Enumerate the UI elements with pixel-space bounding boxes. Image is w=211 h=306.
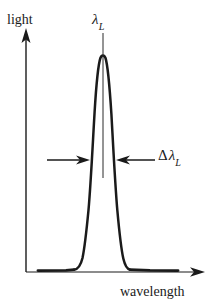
spectrum-peak-curve [74,55,130,269]
lambda-glyph: λ [92,11,99,27]
y-axis-label: light [7,13,33,27]
peak-center-label: λL [92,12,104,30]
lambda-subscript: L [175,157,181,168]
linewidth-label: ΔλL [158,148,181,166]
spectrum-baseline-right [130,270,178,271]
spectrum-baseline-left [38,270,74,271]
x-axis-label: wavelength [120,285,185,299]
lambda-subscript: L [99,21,105,32]
delta-glyph: Δ [158,147,169,163]
spectrum-figure: light wavelength λL ΔλL [0,0,211,306]
